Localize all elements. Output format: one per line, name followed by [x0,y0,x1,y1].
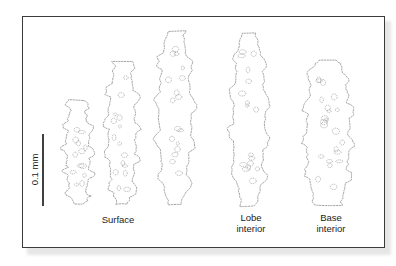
sclerite-surface-3 [153,31,197,205]
label-surface: Surface [98,214,138,225]
label-base-interior: Base interior [309,212,353,234]
scale-bar-label: 0.1 mm [29,148,40,192]
sclerite-lobe-interior-1 [227,33,270,207]
sclerite-surface-2 [103,61,141,204]
sclerite-surface-1 [61,100,95,205]
sclerite-base-interior-1 [301,60,354,206]
label-lobe-interior: Lobe interior [229,212,273,234]
